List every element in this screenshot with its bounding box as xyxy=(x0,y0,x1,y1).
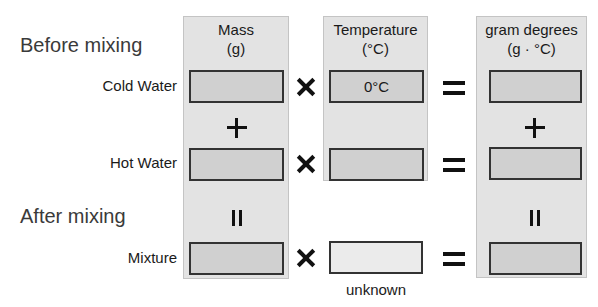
gram-degrees-column-unit: (g · °C) xyxy=(477,40,586,58)
cold-water-mass-field[interactable] xyxy=(189,70,284,103)
hot-water-gram-degrees-field[interactable] xyxy=(489,147,582,180)
row-label-cold-water: Cold Water xyxy=(37,77,177,94)
hot-water-temperature-field[interactable] xyxy=(329,148,424,181)
after-mixing-heading: After mixing xyxy=(20,205,126,228)
multiply-icon xyxy=(296,154,316,174)
equals-icon xyxy=(443,81,465,95)
temperature-column-title: Temperature xyxy=(324,21,427,39)
cold-water-gram-degrees-field[interactable] xyxy=(489,70,582,103)
temperature-column-panel: Temperature (°C) 0°C xyxy=(323,16,428,181)
plus-icon xyxy=(227,118,247,138)
row-label-mixture: Mixture xyxy=(37,249,177,266)
mass-column-title: Mass xyxy=(184,21,288,39)
multiply-icon xyxy=(296,248,316,268)
equals-rotated-icon xyxy=(230,210,244,226)
mass-column-unit: (g) xyxy=(184,40,288,58)
cold-water-temperature-field[interactable]: 0°C xyxy=(329,70,424,103)
multiply-icon xyxy=(296,77,316,97)
mixture-mass-field[interactable] xyxy=(189,242,284,275)
row-label-hot-water: Hot Water xyxy=(37,154,177,171)
equals-icon xyxy=(443,158,465,172)
gram-degrees-column-title: gram degrees xyxy=(477,21,586,39)
mass-column-panel: Mass (g) xyxy=(183,16,289,279)
equals-rotated-icon xyxy=(528,210,542,226)
temperature-column-unit: (°C) xyxy=(324,40,427,58)
before-mixing-heading: Before mixing xyxy=(20,34,142,57)
gram-degrees-column-panel: gram degrees (g · °C) xyxy=(476,16,587,278)
unknown-caption: unknown xyxy=(329,281,423,298)
plus-icon xyxy=(525,118,545,138)
equals-icon xyxy=(443,252,465,266)
mixture-gram-degrees-field[interactable] xyxy=(489,242,582,275)
mixture-temperature-field[interactable] xyxy=(329,241,423,274)
hot-water-mass-field[interactable] xyxy=(189,148,284,181)
